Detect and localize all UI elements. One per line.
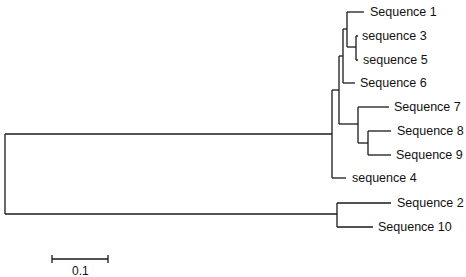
leaf-label-sequence-9: Sequence 9: [396, 148, 463, 162]
clade-upper: [339, 56, 358, 124]
clade-3-5: [356, 36, 358, 60]
clade-1-3-5-6: [343, 29, 355, 83]
leaf-label-sequence-3: sequence 3: [362, 29, 427, 43]
leaf-label-sequence-4: sequence 4: [352, 171, 417, 185]
scale-bar-label: 0.1: [72, 264, 89, 277]
leaf-label-sequence-2: Sequence 2: [397, 196, 464, 210]
leaf-label-sequence-6: Sequence 6: [360, 76, 427, 90]
leaf-label-sequence-5: sequence 5: [363, 53, 428, 67]
scale-bar: [52, 255, 108, 263]
leaf-label-sequence-1: Sequence 1: [370, 5, 437, 19]
root-node: [5, 134, 337, 214]
leaf-label-sequence-8: Sequence 8: [397, 124, 464, 138]
leaf-label-sequence-10: Sequence 10: [378, 220, 452, 234]
clade-7-8-9: [358, 107, 389, 143]
leaf-label-sequence-7: Sequence 7: [394, 100, 461, 114]
clade-8-9: [368, 131, 391, 155]
